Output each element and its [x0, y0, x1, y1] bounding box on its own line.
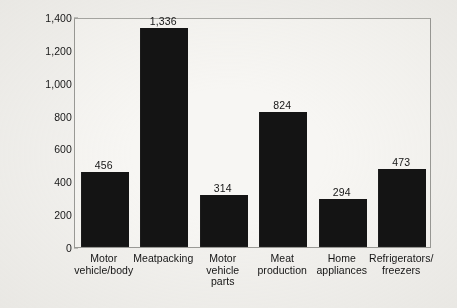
plot-area [74, 18, 431, 248]
bar-value-label: 456 [68, 159, 140, 171]
y-axis-tick-label: 1,400 [12, 12, 72, 24]
bar [378, 169, 426, 247]
y-axis-tick-label: 400 [12, 176, 72, 188]
chart-figure: Number of Disorders 02004006008001,0001,… [0, 0, 457, 308]
y-axis-tick-label: 1,000 [12, 78, 72, 90]
bar [200, 195, 248, 247]
bar-value-label: 473 [365, 156, 437, 168]
bar-value-label: 824 [246, 99, 318, 111]
x-axis-category-label-line: parts [181, 276, 265, 288]
bar-value-label: 294 [306, 186, 378, 198]
y-axis-tick-label: 800 [12, 111, 72, 123]
bar-value-label: 314 [187, 182, 259, 194]
x-axis-category-label-line: freezers [360, 265, 444, 277]
bar [140, 28, 188, 247]
y-axis-tick-label: 1,200 [12, 45, 72, 57]
x-axis-category-label-line: vehicle/body [62, 265, 146, 277]
y-axis-tick-label: 200 [12, 209, 72, 221]
x-axis-category-label-line: Refrigerators/ [360, 253, 444, 265]
bar [81, 172, 129, 247]
bar [259, 112, 307, 247]
y-axis: 02004006008001,0001,2001,400 [6, 18, 72, 248]
bar-value-label: 1,336 [127, 15, 199, 27]
x-axis-category-label: Refrigerators/freezers [360, 253, 444, 276]
y-axis-tick-label: 600 [12, 143, 72, 155]
bar [319, 199, 367, 247]
